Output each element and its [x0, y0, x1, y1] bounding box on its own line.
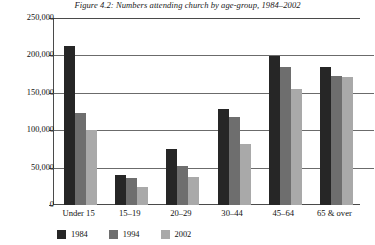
bar — [280, 67, 291, 205]
bar — [240, 144, 251, 205]
y-axis-tick-label: 0 — [2, 201, 54, 209]
bar — [320, 67, 331, 205]
legend-item: 1994 — [109, 230, 140, 239]
bar — [64, 46, 75, 205]
bar-group — [269, 18, 302, 205]
x-axis-tick-label: 45–64 — [258, 208, 309, 218]
y-axis-tick-label: 250,000 — [2, 14, 54, 22]
bar — [331, 76, 342, 205]
bar — [291, 89, 302, 205]
plot-area — [53, 18, 360, 205]
x-axis-tick-label: 15–19 — [104, 208, 155, 218]
bar — [126, 178, 137, 205]
y-axis-tick-label: 200,000 — [2, 51, 54, 59]
legend-swatch — [161, 230, 170, 239]
bar-group — [218, 18, 251, 205]
bar — [75, 113, 86, 205]
bar-group — [166, 18, 199, 205]
bars-layer — [53, 18, 360, 205]
bar-group — [115, 18, 148, 205]
legend-swatch — [57, 230, 66, 239]
bar-group — [320, 18, 353, 205]
bar — [188, 177, 199, 205]
y-axis-tick-label: 50,000 — [2, 164, 54, 172]
x-axis-tick-label: Under 15 — [53, 208, 104, 218]
y-axis-tick-mark — [360, 93, 374, 94]
bar — [166, 149, 177, 205]
legend-label: 2002 — [175, 230, 192, 239]
bar — [115, 175, 126, 205]
bar — [218, 109, 229, 205]
figure-chart: Figure 4.2: Numbers attending church by … — [0, 0, 375, 245]
x-axis-tick-label: 30–44 — [207, 208, 258, 218]
bar — [342, 77, 353, 205]
legend-item: 2002 — [161, 230, 192, 239]
chart-legend: 198419942002 — [57, 228, 212, 240]
bar — [269, 56, 280, 205]
y-axis-tick-mark — [360, 168, 374, 169]
bar — [177, 166, 188, 205]
bar — [229, 117, 240, 205]
bar — [137, 187, 148, 205]
x-axis-tick-label: 65 & over — [309, 208, 360, 218]
y-axis-tick-label: 100,000 — [2, 126, 54, 134]
chart-title: Figure 4.2: Numbers attending church by … — [0, 0, 375, 11]
legend-label: 1984 — [71, 230, 88, 239]
legend-swatch — [109, 230, 118, 239]
bar-group — [64, 18, 97, 205]
y-axis-tick-mark — [360, 55, 374, 56]
legend-label: 1994 — [123, 230, 140, 239]
y-axis-tick-mark — [360, 130, 374, 131]
bar — [86, 130, 97, 205]
x-axis-tick-label: 20–29 — [155, 208, 206, 218]
x-axis-labels: Under 1515–1920–2930–4445–6465 & over — [53, 208, 360, 222]
y-axis-tick-label: 150,000 — [2, 89, 54, 97]
legend-item: 1984 — [57, 230, 88, 239]
